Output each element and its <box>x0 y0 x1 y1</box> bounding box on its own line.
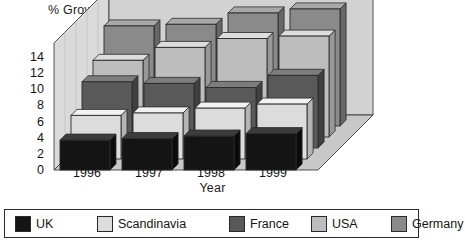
x-axis-tick-1999: 1999 <box>259 166 287 180</box>
y-axis-tick-14: 14 <box>30 51 44 64</box>
bar-side-face <box>318 69 324 148</box>
legend-item-germany[interactable]: Germany <box>391 216 465 232</box>
legend-item-scandinavia[interactable]: Scandinavia <box>97 216 188 232</box>
bar-top-face <box>206 81 262 87</box>
y-axis-tick-6: 6 <box>37 116 44 129</box>
legend-item-uk[interactable]: UK <box>15 216 55 232</box>
bar-side-face <box>329 30 335 137</box>
legend-label: France <box>250 217 289 231</box>
legend-swatch-icon <box>391 216 407 232</box>
bar-top-face <box>93 54 149 60</box>
bar-top-face <box>279 30 335 36</box>
bar-top-face <box>122 133 178 139</box>
legend-swatch-icon <box>97 216 113 232</box>
bar-top-face <box>166 18 222 24</box>
x-axis-title: Year <box>0 181 425 195</box>
bar-top-face <box>82 76 138 82</box>
bar-top-face <box>155 41 211 47</box>
bar-uk-1999 <box>246 128 302 170</box>
bar-side-face <box>340 3 346 126</box>
y-axis-tick-4: 4 <box>37 132 44 145</box>
bar-side-face <box>307 98 313 159</box>
legend-item-france[interactable]: France <box>229 216 291 232</box>
bar-top-face <box>268 69 324 75</box>
y-axis-tick-0: 0 <box>37 164 44 177</box>
bar-top-face <box>133 107 189 113</box>
x-axis-tick-1997: 1997 <box>135 166 163 180</box>
x-axis-tick-1998: 1998 <box>197 166 225 180</box>
x-axis-tick-1996: 1996 <box>73 166 101 180</box>
bar-top-face <box>217 33 273 39</box>
x-axis-tick-labels: 1996199719981999 <box>46 166 404 182</box>
y-axis-tick-12: 12 <box>30 67 44 80</box>
y-axis-tick-8: 8 <box>37 99 44 112</box>
bar-top-face <box>246 128 302 134</box>
bar-side-face <box>234 130 240 170</box>
legend-item-usa[interactable]: USA <box>311 216 360 232</box>
bar-top-face <box>60 134 116 140</box>
legend-label: UK <box>36 217 53 231</box>
legend-swatch-icon <box>229 216 245 232</box>
bar-side-face <box>296 128 302 170</box>
bar-front-face <box>246 134 296 170</box>
bar-uk-1996 <box>60 134 116 170</box>
legend-label: Germany <box>412 217 463 231</box>
chart-legend: UKScandinaviaFranceUSAGermany <box>4 209 419 238</box>
bar-top-face <box>257 98 313 104</box>
bar-top-face <box>144 77 200 83</box>
legend-swatch-icon <box>311 216 327 232</box>
bar-front-face <box>184 136 234 170</box>
chart-3d-stage <box>46 28 404 180</box>
bar-top-face <box>195 102 251 108</box>
bar-top-face <box>71 109 127 115</box>
y-axis-tick-labels: 14121086420 <box>20 28 44 180</box>
legend-label: USA <box>332 217 358 231</box>
plot-area <box>46 28 404 180</box>
bar-top-face <box>228 7 284 13</box>
bar-top-face <box>184 130 240 136</box>
bar-uk-1998 <box>184 130 240 170</box>
legend-swatch-icon <box>15 216 31 232</box>
legend-label: Scandinavia <box>118 217 186 231</box>
bar-top-face <box>290 3 346 9</box>
bar-uk-1997 <box>122 133 178 171</box>
y-axis-tick-2: 2 <box>37 148 44 161</box>
bar-top-face <box>104 20 160 26</box>
y-axis-tick-10: 10 <box>30 83 44 96</box>
